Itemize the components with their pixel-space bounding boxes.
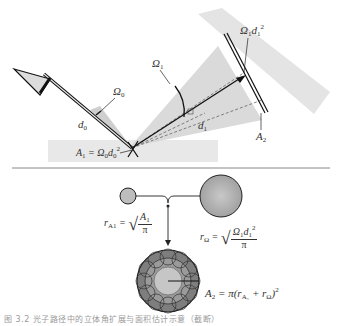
large-circle-omega bbox=[200, 175, 242, 217]
label-omega0: Ω0 bbox=[113, 86, 124, 99]
omega1-leader bbox=[160, 70, 170, 84]
label-a2: A2 bbox=[256, 131, 266, 144]
combine-connector bbox=[136, 196, 200, 203]
label-omega1: Ω1 bbox=[152, 58, 163, 71]
formula-r-a1: rA1 = √A1π bbox=[104, 212, 152, 235]
label-omega1-d1-squared: Ω1d12 bbox=[240, 24, 264, 38]
small-circle-a1 bbox=[120, 188, 136, 204]
figure-caption: 图 3.2 光子路径中的立体角扩展与面积估计示意（截断） bbox=[4, 313, 337, 324]
combined-disk bbox=[136, 249, 200, 313]
formula-r-omega: rΩ = √Ω1d12π bbox=[200, 225, 257, 250]
diagram-figure bbox=[0, 0, 341, 326]
surface-strip bbox=[48, 140, 218, 162]
down-arrow-head bbox=[165, 240, 171, 246]
omega0-leader bbox=[101, 98, 115, 111]
label-d1: d1 bbox=[198, 120, 207, 133]
label-d0: d0 bbox=[78, 119, 87, 132]
camera-icon bbox=[14, 69, 50, 95]
label-a1-equation: A1 = Ω0d02 bbox=[76, 146, 120, 160]
formula-a2: A2 = π(rA₁ + rΩ)2 bbox=[205, 287, 279, 301]
